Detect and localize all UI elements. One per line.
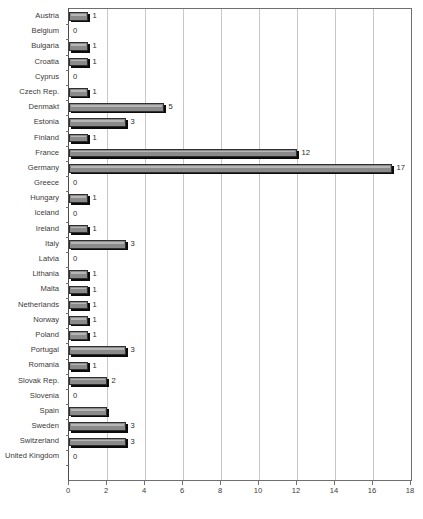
- bar: [69, 422, 126, 431]
- bar-row: 1: [69, 298, 411, 313]
- bar-row: 1: [69, 328, 411, 343]
- category-label: Italy: [0, 236, 64, 251]
- bar-value-label: 3: [131, 436, 135, 448]
- bar: [69, 12, 88, 21]
- x-axis-tick: [334, 481, 335, 485]
- category-label: Ireland: [0, 221, 64, 236]
- category-label: Norway: [0, 312, 64, 327]
- x-axis-tick: [144, 481, 145, 485]
- bar-row: 2: [69, 374, 411, 389]
- x-axis-tick-label: 4: [142, 486, 146, 495]
- category-axis-labels: AustriaBelgiumBulgariaCroatiaCyprusCzech…: [0, 8, 64, 464]
- x-axis-tick: [372, 481, 373, 485]
- bar-value-label: 1: [93, 329, 97, 341]
- bar: [69, 270, 88, 279]
- bar-body: [69, 58, 88, 67]
- bar-highlight: [71, 333, 86, 335]
- x-axis-tick-label: 2: [104, 486, 108, 495]
- bar-row: 3: [69, 237, 411, 252]
- bar-row: 3: [69, 115, 411, 130]
- bar-highlight: [71, 303, 86, 305]
- bar-row: 1: [69, 9, 411, 24]
- bar-body: [69, 42, 88, 51]
- bar-body: [69, 438, 126, 447]
- bar-row: 1: [69, 313, 411, 328]
- bar: [69, 42, 88, 51]
- bar-body: [69, 88, 88, 97]
- bar: [69, 149, 297, 158]
- category-label: Greece: [0, 175, 64, 190]
- bar-value-label: 1: [93, 40, 97, 52]
- bar-highlight: [71, 14, 86, 16]
- bar-highlight: [71, 272, 86, 274]
- bar-highlight: [71, 379, 105, 381]
- x-axis-tick: [410, 481, 411, 485]
- category-label: France: [0, 145, 64, 160]
- x-axis-tick-label: 6: [180, 486, 184, 495]
- category-label: Spain: [0, 403, 64, 418]
- bar-highlight: [71, 90, 86, 92]
- bar: [69, 407, 107, 416]
- bar-highlight: [71, 105, 162, 107]
- bar-value-label: 5: [169, 101, 173, 113]
- bar-value-label: 12: [302, 147, 310, 159]
- bar-body: [69, 194, 88, 203]
- category-label: United Kingdom: [0, 448, 64, 463]
- bar-row: 0: [69, 207, 411, 222]
- bar-value-label: 1: [93, 56, 97, 68]
- bar-row: 1: [69, 39, 411, 54]
- bar-value-label: 0: [73, 451, 77, 463]
- category-label: Lithania: [0, 266, 64, 281]
- bar: [69, 225, 88, 234]
- x-axis-tick-label: 0: [66, 486, 70, 495]
- bar-row: 1: [69, 191, 411, 206]
- bar-row: 0: [69, 450, 411, 465]
- category-label: Hungary: [0, 190, 64, 205]
- bar-value-label: 17: [397, 162, 405, 174]
- category-label: Slovak Rep.: [0, 373, 64, 388]
- category-label: Germany: [0, 160, 64, 175]
- bar-value-label: 1: [93, 10, 97, 22]
- bar-value-label: 1: [93, 268, 97, 280]
- bar: [69, 301, 88, 310]
- category-label: Estonia: [0, 114, 64, 129]
- bar-body: [69, 301, 88, 310]
- category-label: Iceland: [0, 205, 64, 220]
- category-label: Portugal: [0, 342, 64, 357]
- bar-highlight: [71, 364, 86, 366]
- bar-body: [69, 12, 88, 21]
- bar-body: [69, 346, 126, 355]
- bar-body: [69, 362, 88, 371]
- x-axis-tick-label: 16: [368, 486, 376, 495]
- category-label: Sweden: [0, 418, 64, 433]
- bar-highlight: [71, 288, 86, 290]
- bar-value-label: 3: [131, 238, 135, 250]
- bar-highlight: [71, 409, 105, 411]
- category-label: Malta: [0, 281, 64, 296]
- bar-value-label: 0: [73, 253, 77, 265]
- bar-body: [69, 149, 297, 158]
- bar: [69, 58, 88, 67]
- bar-body: [69, 331, 88, 340]
- bar-highlight: [71, 440, 124, 442]
- bar: [69, 118, 126, 127]
- category-label: Belgium: [0, 23, 64, 38]
- category-label: Latvia: [0, 251, 64, 266]
- bar-body: [69, 225, 88, 234]
- bar-row: 1: [69, 267, 411, 282]
- bar-value-label: 0: [73, 208, 77, 220]
- bar-row: 1: [69, 359, 411, 374]
- bar-value-label: 2: [112, 375, 116, 387]
- bar: [69, 362, 88, 371]
- bar-row: 0: [69, 24, 411, 39]
- bar-value-label: 3: [131, 420, 135, 432]
- bar-highlight: [71, 227, 86, 229]
- bar-row: 0: [69, 389, 411, 404]
- bar-value-label: 1: [93, 314, 97, 326]
- category-label: Netherlands: [0, 297, 64, 312]
- bar: [69, 331, 88, 340]
- bar-value-label: 1: [93, 192, 97, 204]
- bar-body: [69, 407, 107, 416]
- category-label: Poland: [0, 327, 64, 342]
- bar-row: 3: [69, 435, 411, 450]
